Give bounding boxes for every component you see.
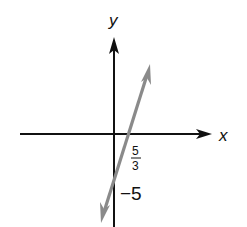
x-intercept-numerator: 5 — [132, 144, 139, 158]
y-intercept-label: −5 — [120, 183, 142, 204]
x-intercept-label: 5 3 — [131, 144, 141, 173]
x-axis — [20, 129, 212, 139]
graph-canvas: y x 5 3 −5 — [0, 0, 247, 227]
x-axis-label: x — [218, 126, 228, 145]
y-axis — [109, 37, 119, 227]
x-intercept-denominator: 3 — [132, 159, 139, 173]
y-axis-label: y — [108, 11, 119, 30]
